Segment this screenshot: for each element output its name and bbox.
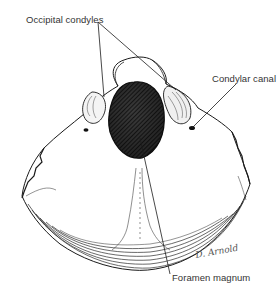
external-occipital-crest — [112, 168, 170, 250]
label-condylar-canal: Condylar canal — [212, 73, 276, 84]
artist-signature: D. Arnold — [194, 243, 240, 261]
foramen-magnum — [109, 82, 165, 158]
label-occipital-condyles: Occipital condyles — [26, 14, 103, 25]
left-occipital-condyle — [83, 92, 106, 123]
occipital-bone-illustration: D. Arnold — [0, 0, 280, 295]
right-condylar-canal — [189, 126, 195, 130]
label-foramen-magnum: Foramen magnum — [172, 272, 250, 283]
left-condylar-canal — [84, 128, 89, 132]
right-occipital-condyle — [164, 86, 191, 124]
